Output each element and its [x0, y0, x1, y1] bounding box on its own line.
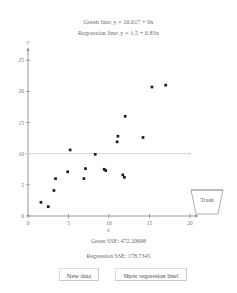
data-point[interactable]: [124, 115, 127, 118]
green-sse-readout: Green SSE: 472.20698: [0, 238, 237, 244]
y-tick-label: 20: [6, 88, 24, 94]
new-data-button[interactable]: New data: [59, 268, 99, 281]
y-tick-label: 15: [6, 120, 24, 126]
data-point[interactable]: [117, 135, 120, 138]
x-tick-label: 20: [181, 220, 199, 226]
data-point[interactable]: [142, 136, 145, 139]
data-point[interactable]: [164, 84, 167, 87]
regression-applet: Green line: y = 10.017 + 0x Regression l…: [0, 0, 237, 293]
y-tick-label: 10: [6, 151, 24, 157]
data-point[interactable]: [47, 205, 50, 208]
green-line-equation: Green line: y = 10.017 + 0x: [0, 18, 237, 25]
green-line-handle[interactable]: [189, 152, 191, 154]
trash-drop-target[interactable]: Trash: [185, 188, 229, 216]
y-axis-label: y: [27, 39, 29, 45]
regression-line-equation: Regression line: y = 1.5 + 0.83x: [0, 29, 237, 36]
data-point[interactable]: [94, 153, 97, 156]
data-point[interactable]: [151, 86, 154, 89]
x-tick-label: 0: [19, 220, 37, 226]
data-point[interactable]: [53, 189, 56, 192]
data-point[interactable]: [116, 141, 119, 144]
x-tick-label: 10: [100, 220, 118, 226]
x-tick-label: 15: [141, 220, 159, 226]
trash-label: Trash: [185, 197, 229, 203]
x-tick-label: 5: [60, 220, 78, 226]
y-tick-label: 25: [6, 57, 24, 63]
green-line-handle[interactable]: [27, 152, 29, 154]
data-point[interactable]: [104, 169, 107, 172]
data-point[interactable]: [66, 170, 69, 173]
data-point[interactable]: [121, 174, 124, 177]
data-point[interactable]: [40, 201, 43, 204]
data-point[interactable]: [123, 176, 126, 179]
show-regression-line-button[interactable]: Show regression line!: [115, 268, 187, 281]
data-point[interactable]: [69, 149, 72, 152]
y-axis-arrow: [26, 48, 29, 51]
y-tick-label: 0: [6, 213, 24, 219]
data-point[interactable]: [54, 177, 57, 180]
button-row: New data Show regression line!: [0, 268, 237, 284]
y-tick-label: 5: [6, 182, 24, 188]
x-axis-label: x: [107, 227, 109, 233]
regression-sse-readout: Regression SSE: 178.7345: [0, 253, 237, 259]
data-point[interactable]: [84, 167, 87, 170]
data-point[interactable]: [83, 177, 86, 180]
